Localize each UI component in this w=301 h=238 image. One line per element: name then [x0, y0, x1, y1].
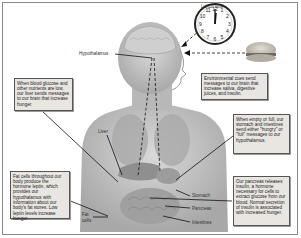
pancreas-note: Our pancreas releases insulin, a hormone… [233, 176, 290, 226]
svg-text:6: 6 [214, 36, 217, 42]
intestines-label: Intestines [192, 220, 212, 225]
svg-text:4: 4 [226, 28, 229, 34]
liver-label: Liver [98, 129, 108, 134]
liver-note: When blood glucose and other nutrients a… [14, 78, 73, 111]
svg-text:2: 2 [226, 13, 229, 19]
svg-text:3: 3 [228, 21, 231, 27]
fat-cells-label-line1: Fat [82, 212, 89, 217]
stomach-label: Stomach [192, 193, 210, 198]
intestines-shape [120, 188, 180, 224]
lunch-time-label: Lunch time [201, 4, 223, 9]
fat-cells-label-line2: cells [82, 218, 91, 223]
fat-cells-note: Fat cells throughout our body produce th… [10, 171, 70, 219]
svg-text:10: 10 [200, 13, 206, 19]
pancreas-label: Pancreas [192, 206, 211, 211]
svg-text:8: 8 [201, 28, 204, 34]
svg-text:9: 9 [199, 21, 202, 27]
stomach-note: When empty or full, our stomach and inte… [233, 114, 290, 154]
svg-text:7: 7 [207, 34, 210, 40]
environment-note: Environmental cues send messages to our … [201, 73, 268, 100]
hamburger-icon [246, 42, 276, 62]
svg-text:5: 5 [221, 34, 224, 40]
hypothalamus-label: Hypothalamus [79, 51, 108, 56]
